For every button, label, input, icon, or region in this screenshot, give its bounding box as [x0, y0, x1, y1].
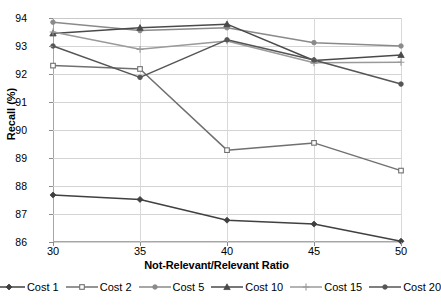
y-tick-mark — [49, 102, 53, 103]
data-point-marker — [311, 221, 317, 227]
legend-item-cost-10[interactable]: Cost 10 — [210, 281, 283, 293]
x-tick-mark — [227, 242, 228, 246]
x-tick-label: 45 — [294, 246, 334, 257]
series-lines — [53, 18, 401, 242]
legend-item-cost-2[interactable]: Cost 2 — [65, 281, 132, 293]
x-tick-label: 50 — [381, 246, 421, 257]
legend-marker-circle-icon — [138, 281, 172, 293]
legend-marker-square-icon — [65, 281, 99, 293]
data-point-marker — [312, 58, 317, 63]
plot-area — [53, 18, 401, 242]
x-tick-mark — [314, 242, 315, 246]
y-tick-label: 87 — [0, 209, 27, 219]
legend-label: Cost 10 — [245, 281, 283, 293]
legend-marker-plus-icon — [289, 281, 323, 293]
y-tick-mark — [49, 158, 53, 159]
y-tick-label: 86 — [0, 237, 27, 247]
y-tick-mark — [49, 214, 53, 215]
y-tick-label: 93 — [0, 41, 27, 51]
x-tick-label: 35 — [120, 246, 160, 257]
legend-marker-triangle-icon — [210, 281, 244, 293]
data-point-marker — [312, 141, 317, 146]
legend-marker-diamond-icon — [0, 281, 26, 293]
legend-label: Cost 2 — [100, 281, 132, 293]
data-point-marker — [138, 75, 143, 80]
x-axis-title: Not-Relevant/Relevant Ratio — [0, 259, 433, 271]
data-point-marker — [224, 217, 230, 223]
legend-item-cost-15[interactable]: Cost 15 — [289, 281, 362, 293]
data-point-marker — [399, 82, 404, 87]
legend-label: Cost 5 — [173, 281, 205, 293]
y-tick-mark — [49, 130, 53, 131]
x-tick-mark — [53, 242, 54, 246]
y-tick-mark — [49, 74, 53, 75]
data-point-marker — [137, 46, 144, 53]
x-tick-mark — [140, 242, 141, 246]
y-axis-title: Recall (%) — [5, 59, 17, 169]
chart-legend: Cost 1Cost 2Cost 5Cost 10Cost 15Cost 20 — [0, 281, 433, 293]
x-tick-label: 40 — [207, 246, 247, 257]
x-tick-mark — [401, 242, 402, 246]
data-point-marker — [225, 38, 230, 43]
legend-item-cost-20[interactable]: Cost 20 — [368, 281, 441, 293]
legend-item-cost-1[interactable]: Cost 1 — [0, 281, 59, 293]
data-point-marker — [50, 192, 56, 198]
series-line — [53, 66, 401, 171]
y-tick-mark — [49, 18, 53, 19]
data-point-marker — [51, 20, 56, 25]
data-point-marker — [51, 63, 56, 68]
legend-label: Cost 20 — [403, 281, 441, 293]
data-point-marker — [137, 196, 143, 202]
data-point-marker — [399, 168, 404, 173]
legend-marker-circle-icon — [368, 281, 402, 293]
data-point-marker — [225, 148, 230, 153]
legend-item-cost-5[interactable]: Cost 5 — [138, 281, 205, 293]
y-tick-mark — [49, 46, 53, 47]
legend-label: Cost 15 — [324, 281, 362, 293]
series-cost-15 — [50, 29, 405, 67]
y-tick-label: 94 — [0, 13, 27, 23]
data-point-marker — [399, 44, 404, 49]
series-cost-1 — [50, 192, 404, 244]
y-tick-label: 88 — [0, 181, 27, 191]
x-tick-label: 30 — [33, 246, 73, 257]
data-point-marker — [398, 59, 405, 66]
y-tick-mark — [49, 186, 53, 187]
legend-label: Cost 1 — [27, 281, 59, 293]
data-point-marker — [312, 40, 317, 45]
series-cost-2 — [51, 63, 404, 173]
data-point-marker — [138, 67, 143, 72]
